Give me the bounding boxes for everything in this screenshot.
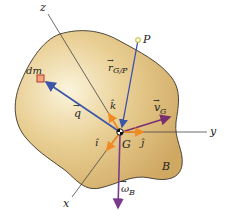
- svg-text:q: q: [74, 107, 81, 120]
- rigid-body-diagram: z y x P G B dm → r G/P → q → v G → ω B k…: [0, 0, 229, 217]
- z-axis-label: z: [39, 1, 46, 14]
- dm-mass-element: [37, 75, 44, 82]
- point-p-marker: [136, 38, 141, 43]
- dm-label: dm: [26, 65, 42, 76]
- point-g-label: G: [122, 138, 131, 151]
- svg-text:ω: ω: [121, 183, 129, 194]
- svg-text:G: G: [160, 107, 167, 116]
- y-axis-label: y: [209, 125, 217, 138]
- point-p-label: P: [142, 33, 151, 46]
- k-hat-label: k̂: [110, 99, 116, 111]
- svg-text:B: B: [128, 188, 135, 197]
- x-axis-label: x: [63, 197, 70, 210]
- omega-b-label: → ω B: [120, 177, 135, 197]
- body-b-label: B: [161, 160, 170, 173]
- svg-text:G/P: G/P: [113, 66, 128, 75]
